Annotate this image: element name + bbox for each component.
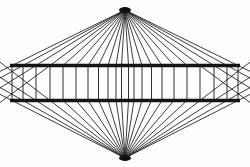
top-vertex-blob xyxy=(119,7,131,13)
illusion-figure-svg xyxy=(0,0,250,167)
bottom-vertex-blob xyxy=(119,155,131,161)
illusion-figure-container xyxy=(0,0,250,167)
figure-background xyxy=(0,0,250,167)
